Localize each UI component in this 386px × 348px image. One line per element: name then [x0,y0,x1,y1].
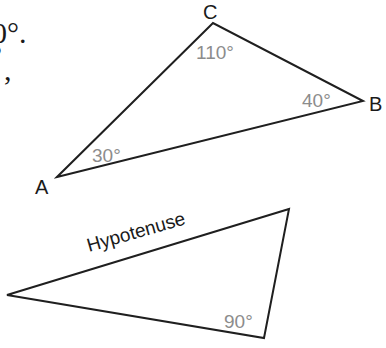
right-angle-label: 90° [224,311,253,332]
angle-label-c: 110° [196,42,234,63]
angle-label-b: 40° [302,90,331,111]
text-fragment-line1: 0°. [0,16,27,49]
vertex-label-b: B [369,93,382,115]
text-fragment-line3: , [4,53,12,86]
vertex-label-c: C [203,1,217,23]
vertex-label-a: A [35,176,49,198]
triangles-diagram: 0°. ° , C B A 110° 40° 30° Hypotenuse 90… [0,0,386,348]
angle-label-a: 30° [92,145,121,166]
hypotenuse-label: Hypotenuse [84,208,187,256]
text-fragment-line2: ° [0,39,2,72]
